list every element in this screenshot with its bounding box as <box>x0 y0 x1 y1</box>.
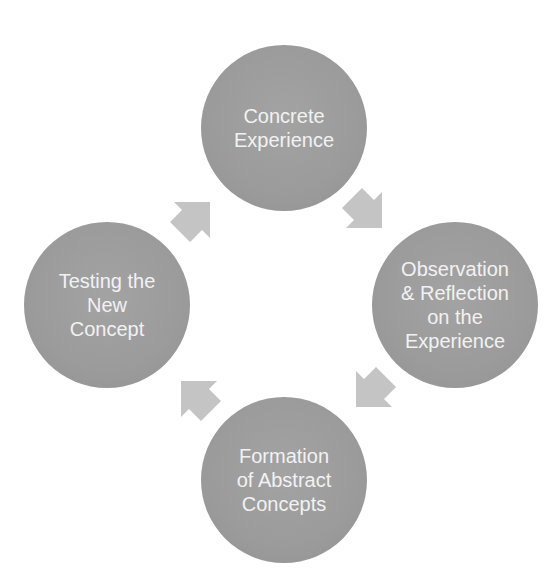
arrow-up-left-icon <box>175 375 223 423</box>
node-label: Testing the New Concept <box>59 269 156 341</box>
node-testing-new-concept: Testing the New Concept <box>24 222 190 388</box>
node-observation-reflection: Observation & Reflection on the Experien… <box>372 222 538 388</box>
node-label: Concrete Experience <box>234 104 334 152</box>
node-formation-abstract: Formation of Abstract Concepts <box>201 397 367 563</box>
node-label: Formation of Abstract Concepts <box>237 444 332 516</box>
arrow-up-right-icon <box>168 196 216 244</box>
learning-cycle-diagram: Concrete Experience Observation & Reflec… <box>0 0 560 588</box>
node-label: Observation & Reflection on the Experien… <box>401 257 509 353</box>
arrow-down-right-icon <box>340 186 388 234</box>
arrow-down-left-icon <box>350 365 398 413</box>
